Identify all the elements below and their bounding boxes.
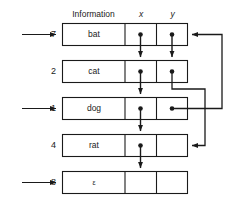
row-information: cat	[63, 67, 125, 76]
row-index: 4	[38, 141, 56, 150]
row-index: 1	[38, 104, 56, 113]
row-information: rat	[63, 141, 125, 150]
header-x: x	[125, 10, 157, 19]
row-index: 7	[38, 30, 56, 39]
row-index: 8	[38, 178, 56, 187]
y-pointer-links	[170, 32, 222, 145]
row-information: dog	[63, 104, 125, 113]
row-index: 2	[38, 67, 56, 76]
row-information: ε	[63, 179, 125, 186]
diagram-canvas: Information x y 7 bat 2 cat 1 dog 4 rat …	[0, 0, 237, 205]
header-information: Information	[62, 10, 125, 19]
header-y: y	[157, 10, 188, 19]
row-information: bat	[63, 30, 125, 39]
